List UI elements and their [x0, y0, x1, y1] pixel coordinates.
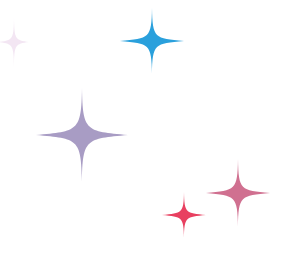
red-sparkle-icon — [162, 192, 206, 238]
mauve-sparkle-icon — [206, 159, 270, 227]
blue-sparkle-icon — [120, 8, 184, 74]
faint-pink-sparkle-icon — [0, 16, 29, 68]
purple-sparkle-icon — [36, 88, 128, 182]
